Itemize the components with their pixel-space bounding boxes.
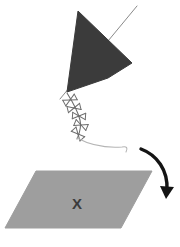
landing-spot-x-mark: X <box>72 195 82 212</box>
kite-diagram-figure: X <box>0 0 180 247</box>
figure-canvas: X <box>0 0 180 247</box>
